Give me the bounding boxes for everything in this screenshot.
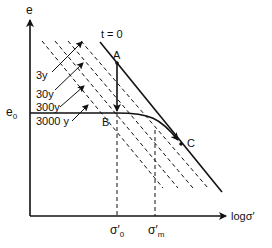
arrow-3y xyxy=(52,42,82,72)
label-3y: 3y xyxy=(36,69,48,81)
time-line-30y xyxy=(68,41,193,188)
point-c-label: C xyxy=(187,137,195,149)
sigma0-label: σ′0 xyxy=(110,223,125,239)
label-3000y: 3000 y xyxy=(36,115,70,127)
time-labels: 3y 30y 300y 3000 y xyxy=(36,69,70,127)
arrow-300y xyxy=(60,86,84,107)
label-300y: 300y xyxy=(36,101,60,113)
label-30y: 30y xyxy=(36,88,54,100)
point-a-marker xyxy=(115,61,119,65)
instant-line-label: t = 0 xyxy=(101,28,123,40)
point-b-label: B xyxy=(102,116,109,128)
point-a-label: A xyxy=(113,49,121,61)
consolidation-diagram: e logσ′ t = 0 3y 30y 300y 3000 y e0 A B … xyxy=(0,0,272,248)
e0-label: e0 xyxy=(6,105,18,121)
x-axis-label: logσ′ xyxy=(231,210,255,222)
y-axis-label: e xyxy=(26,3,33,17)
sigmam-label: σ′m xyxy=(148,223,165,239)
point-c-marker xyxy=(179,142,183,146)
